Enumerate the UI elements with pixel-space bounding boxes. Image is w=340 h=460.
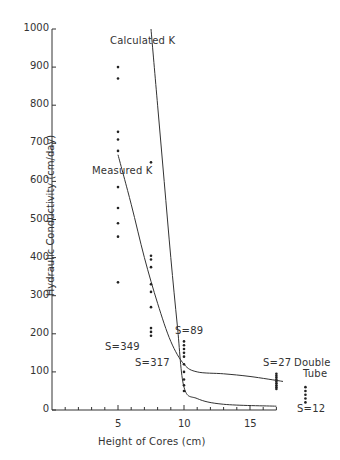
data-point xyxy=(117,138,120,141)
data-point xyxy=(117,281,120,284)
x-tick-label: 15 xyxy=(244,418,257,429)
data-point xyxy=(183,384,186,387)
data-point xyxy=(150,254,153,257)
y-tick-label: 0 xyxy=(43,403,49,414)
data-point xyxy=(183,355,186,358)
curves xyxy=(118,29,283,406)
s317-label: S=317 xyxy=(135,357,170,368)
data-point xyxy=(117,235,120,238)
calculated-k-label: Calculated K xyxy=(110,35,175,46)
data-point xyxy=(117,207,120,210)
data-point xyxy=(150,327,153,330)
x-axis-label: Height of Cores (cm) xyxy=(98,436,206,447)
data-points xyxy=(117,66,307,404)
data-point xyxy=(183,348,186,351)
data-point xyxy=(117,222,120,225)
y-tick-label: 900 xyxy=(30,60,49,71)
y-tick-label: 100 xyxy=(30,365,49,376)
data-point xyxy=(150,306,153,309)
data-point xyxy=(183,340,186,343)
data-point xyxy=(150,334,153,337)
s12-label: S=12 xyxy=(297,403,325,414)
data-point xyxy=(117,150,120,153)
data-point xyxy=(183,344,186,347)
s349-label: S=349 xyxy=(105,341,140,352)
data-point xyxy=(275,388,278,391)
data-point xyxy=(183,390,186,393)
double-tube-label-2: Tube xyxy=(303,368,327,379)
data-point xyxy=(183,363,186,366)
data-point xyxy=(117,186,120,189)
data-point xyxy=(150,266,153,269)
calculated-k-curve xyxy=(151,29,276,406)
data-point xyxy=(183,371,186,374)
data-point xyxy=(150,291,153,294)
data-point xyxy=(117,131,120,134)
s89-label: S=89 xyxy=(175,325,203,336)
s27-label: S=27 xyxy=(263,357,291,368)
data-point xyxy=(150,331,153,334)
y-tick-label: 1000 xyxy=(24,22,49,33)
data-point xyxy=(304,397,307,400)
y-tick-label: 200 xyxy=(30,327,49,338)
measured-k-label: Measured K xyxy=(92,165,153,176)
data-point xyxy=(150,283,153,286)
y-tick-label: 800 xyxy=(30,98,49,109)
data-point xyxy=(183,352,186,355)
data-point xyxy=(304,390,307,393)
x-tick-label: 5 xyxy=(115,418,121,429)
data-point xyxy=(304,386,307,389)
axes xyxy=(52,29,276,410)
data-point xyxy=(117,66,120,69)
data-point xyxy=(117,77,120,80)
double-tube-label: Double xyxy=(294,357,331,368)
y-axis-label: Hydraulic Conductivity (cm/day) xyxy=(45,116,56,316)
data-point xyxy=(150,258,153,261)
measured-k-curve xyxy=(118,155,283,382)
data-point xyxy=(304,393,307,396)
data-point xyxy=(150,161,153,164)
data-point xyxy=(183,378,186,381)
x-tick-label: 10 xyxy=(178,418,191,429)
